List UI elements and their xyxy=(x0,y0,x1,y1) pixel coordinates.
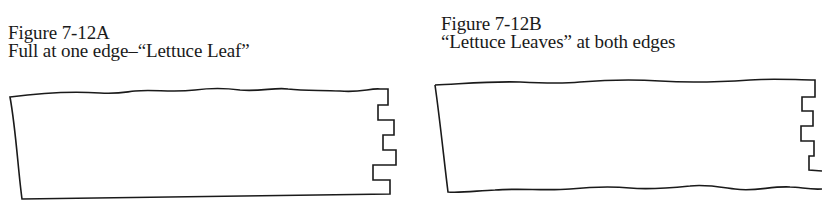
figure-a-pattern-piece xyxy=(10,89,396,200)
figure-b-pattern-piece xyxy=(435,79,822,192)
pattern-diagrams xyxy=(0,0,822,207)
